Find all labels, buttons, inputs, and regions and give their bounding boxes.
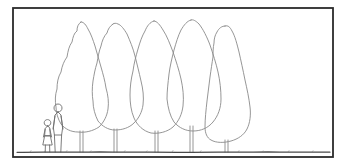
ground-line bbox=[17, 152, 330, 153]
tree-row-elevation-drawing bbox=[0, 0, 345, 166]
illustration-canvas bbox=[0, 0, 345, 166]
